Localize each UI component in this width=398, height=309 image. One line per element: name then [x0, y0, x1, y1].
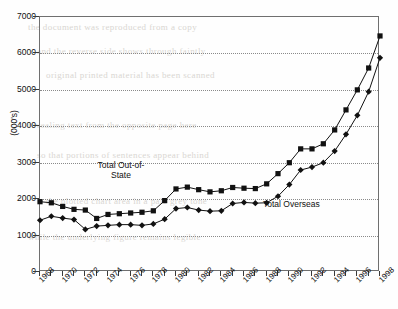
data-point-marker [116, 222, 122, 228]
data-point-marker [105, 222, 111, 228]
data-point-marker [241, 199, 247, 205]
data-point-marker [366, 89, 372, 95]
data-point-marker [309, 146, 314, 151]
data-point-marker [196, 187, 201, 192]
data-point-marker [196, 207, 202, 213]
data-point-marker [377, 33, 382, 38]
data-point-marker [162, 198, 167, 203]
data-point-marker [218, 208, 224, 214]
data-point-marker [377, 55, 383, 61]
data-point-marker [241, 186, 246, 191]
data-point-marker [37, 199, 42, 204]
chart-figure: the document was reproduced from a copya… [0, 0, 398, 309]
data-point-marker [275, 171, 280, 176]
data-point-marker [128, 210, 133, 215]
data-point-marker [230, 185, 235, 190]
data-point-marker [151, 208, 156, 213]
data-point-marker [60, 215, 66, 221]
series-line-overseas [40, 58, 380, 230]
data-point-marker [60, 204, 65, 209]
data-point-marker [366, 65, 371, 70]
data-point-marker [252, 200, 258, 206]
data-point-marker [94, 223, 100, 229]
data-point-marker [37, 217, 43, 223]
total-out-of-state-label: Total Out-of- State [86, 160, 156, 180]
data-point-marker [354, 112, 360, 118]
data-point-marker [230, 200, 236, 206]
data-point-marker [150, 221, 156, 227]
data-point-marker [71, 207, 76, 212]
data-point-marker [184, 204, 190, 210]
data-point-marker [117, 211, 122, 216]
data-point-marker [298, 146, 303, 151]
data-series-layer [40, 17, 380, 272]
data-point-marker [343, 107, 348, 112]
data-point-marker [207, 208, 213, 214]
data-point-marker [105, 212, 110, 217]
data-point-marker [94, 216, 99, 221]
data-point-marker [219, 188, 224, 193]
data-point-marker [355, 87, 360, 92]
data-point-marker [264, 181, 269, 186]
data-point-marker [83, 207, 88, 212]
data-point-marker [185, 185, 190, 190]
data-point-marker [173, 186, 178, 191]
data-point-marker [253, 186, 258, 191]
data-point-marker [139, 222, 145, 228]
data-point-marker [139, 210, 144, 215]
data-point-marker [343, 131, 349, 137]
annot-line-1: Total Out-of- [86, 160, 156, 170]
annot-line-2: State [86, 170, 156, 180]
data-point-marker [287, 160, 292, 165]
data-point-marker [321, 141, 326, 146]
y-axis-labels: 01000200030004000500060007000 [0, 16, 36, 271]
total-overseas-label: Total Overseas [263, 199, 320, 209]
data-point-marker [309, 164, 315, 170]
data-point-marker [48, 213, 54, 219]
data-point-marker [128, 222, 134, 228]
data-point-marker [49, 200, 54, 205]
data-point-marker [332, 127, 337, 132]
plot-area [39, 16, 379, 271]
data-point-marker [207, 189, 212, 194]
